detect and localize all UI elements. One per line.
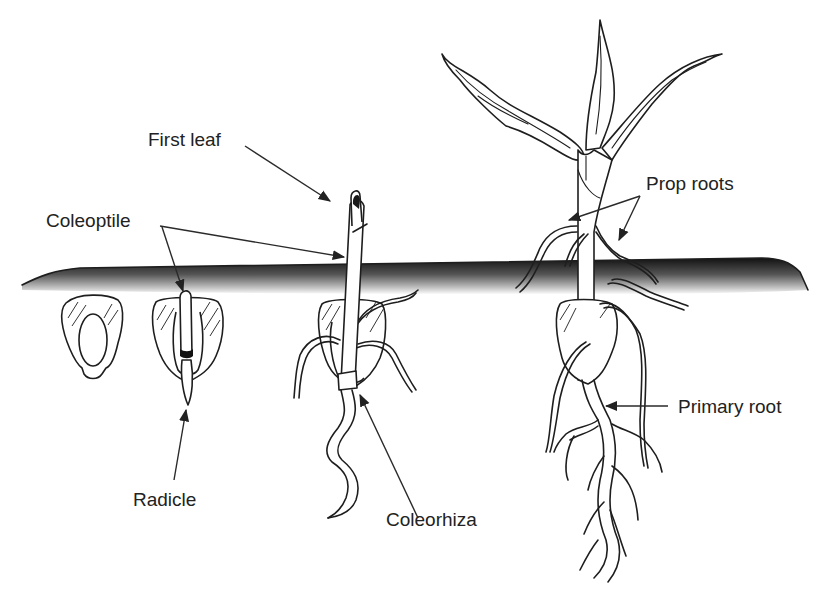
- diagram-canvas: First leaf Coleoptile Prop roots Radicle…: [0, 0, 823, 592]
- seedling-stage-3: [294, 191, 418, 518]
- label-coleoptile: Coleoptile: [46, 211, 131, 230]
- first-leaf-arrow: [245, 146, 330, 201]
- kernel-stage-1: [62, 295, 123, 378]
- diagram-illustration: [0, 0, 823, 592]
- coleorhiza-arrow: [360, 395, 418, 518]
- plant-stage-4: [442, 20, 722, 582]
- label-coleorhiza: Coleorhiza: [386, 510, 477, 529]
- kernel-stage-2: [153, 291, 224, 405]
- label-primary-root: Primary root: [678, 397, 781, 416]
- radicle-arrow: [174, 410, 186, 480]
- label-first-leaf: First leaf: [148, 130, 221, 149]
- label-prop-roots: Prop roots: [646, 174, 734, 193]
- soil-surface: [22, 258, 808, 295]
- coleoptile-arrow-seedling: [160, 226, 344, 257]
- label-radicle: Radicle: [133, 490, 196, 509]
